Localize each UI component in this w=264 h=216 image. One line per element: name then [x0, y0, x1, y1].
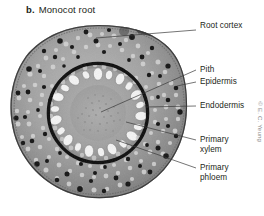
label-primary-xylem-line1: Primary [200, 135, 229, 145]
label-pith: Pith [200, 65, 214, 75]
figure-monocot-root: b.Monocot root [0, 0, 264, 216]
label-primary-phloem: Primary phloem [200, 163, 229, 182]
label-pith-text: Pith [200, 65, 214, 74]
label-primary-xylem: Primary xylem [200, 135, 229, 154]
label-primary-phloem-line1: Primary [200, 163, 229, 173]
image-credit: © E. C. Yeung [257, 80, 263, 142]
label-endodermis: Endodermis [200, 101, 244, 111]
label-root-cortex-text: Root cortex [200, 21, 242, 30]
label-endodermis-text: Endodermis [200, 101, 244, 110]
label-epidermis-text: Epidermis [200, 77, 237, 86]
label-epidermis: Epidermis [200, 77, 237, 87]
label-root-cortex: Root cortex [200, 21, 242, 31]
label-primary-phloem-line2: phloem [200, 173, 229, 183]
label-primary-xylem-line2: xylem [200, 145, 229, 155]
